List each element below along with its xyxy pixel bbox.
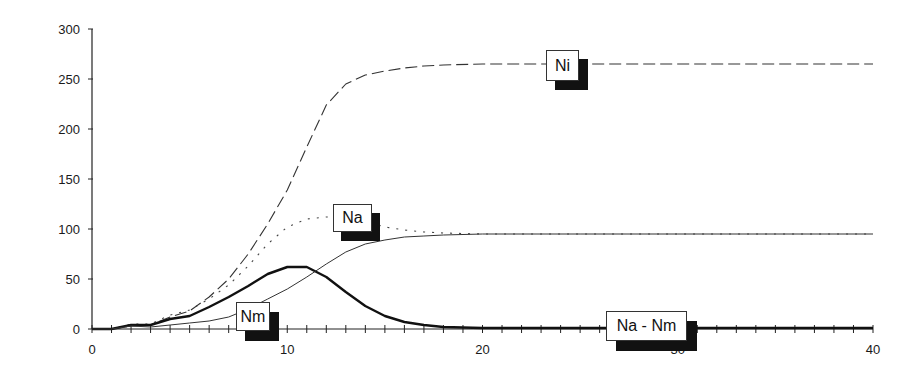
label-ni-text: Ni (546, 50, 579, 81)
tick-labels: 300250200150100500010203040 (58, 22, 880, 357)
y-tick-label: 150 (58, 172, 80, 187)
label-nm-text: Nm (236, 302, 270, 331)
line-chart: 300250200150100500010203040 (0, 0, 922, 389)
label-na-nm-text: Na - Nm (606, 311, 687, 341)
y-tick-label: 200 (58, 122, 80, 137)
series-group (92, 64, 873, 329)
series-ni (92, 64, 873, 329)
y-tick-label: 50 (66, 272, 80, 287)
y-tick-label: 250 (58, 72, 80, 87)
x-tick-label: 0 (88, 342, 95, 357)
y-tick-label: 300 (58, 22, 80, 37)
x-tick-label: 40 (866, 342, 880, 357)
x-tick-label: 20 (475, 342, 489, 357)
series-nm (92, 267, 873, 329)
y-tick-label: 100 (58, 222, 80, 237)
label-na-text: Na (333, 204, 372, 232)
y-tick-label: 0 (73, 322, 80, 337)
x-tick-label: 10 (280, 342, 294, 357)
axes (88, 29, 873, 333)
series-na-nm (92, 234, 873, 329)
